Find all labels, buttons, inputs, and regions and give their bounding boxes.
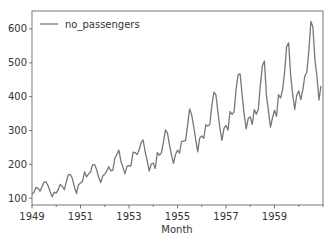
x-tick-label: 1959 [262, 211, 287, 222]
y-tick-label: 100 [8, 193, 27, 204]
x-tick-label: 1955 [165, 211, 190, 222]
legend-label: no_passengers [65, 19, 140, 31]
y-tick-label: 200 [8, 159, 27, 170]
line-chart: 100200300400500600 194919511953195519571… [0, 0, 334, 240]
x-axis-label: Month [161, 224, 192, 235]
y-axis: 100200300400500600 [8, 23, 32, 203]
x-tick-label: 1949 [19, 211, 44, 222]
x-tick-label: 1951 [68, 211, 93, 222]
y-tick-label: 500 [8, 57, 27, 68]
plot-area [32, 11, 323, 205]
y-tick-label: 300 [8, 125, 27, 136]
y-tick-label: 400 [8, 91, 27, 102]
x-tick-label: 1957 [213, 211, 238, 222]
y-tick-label: 600 [8, 23, 27, 34]
x-tick-label: 1953 [116, 211, 141, 222]
x-axis: 194919511953195519571959 [19, 205, 323, 222]
